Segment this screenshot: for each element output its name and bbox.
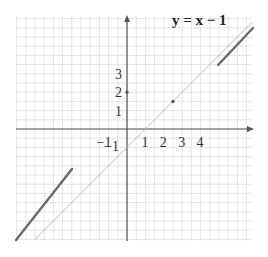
series-y-x-1 [35, 22, 252, 239]
axes [16, 15, 254, 241]
point-on-line [171, 100, 174, 103]
x-tick-label: 3 [178, 135, 185, 150]
x-tick-label: 2 [160, 135, 167, 150]
y-tick-label: 2 [115, 85, 122, 100]
y-tick-label: −1 [104, 139, 119, 154]
x-axis-arrow-icon [247, 126, 254, 132]
x-tick-label: 1 [141, 135, 148, 150]
series-group [16, 22, 253, 240]
y-tick-label: 3 [115, 67, 122, 82]
chart-title: y = x − 1 [172, 12, 227, 28]
x-tick-label: 4 [197, 135, 204, 150]
graph: −11234−1123 y = x − 1 [0, 0, 268, 257]
y-tick-label: 1 [115, 104, 122, 119]
y-axis-tick-2 [125, 91, 128, 94]
